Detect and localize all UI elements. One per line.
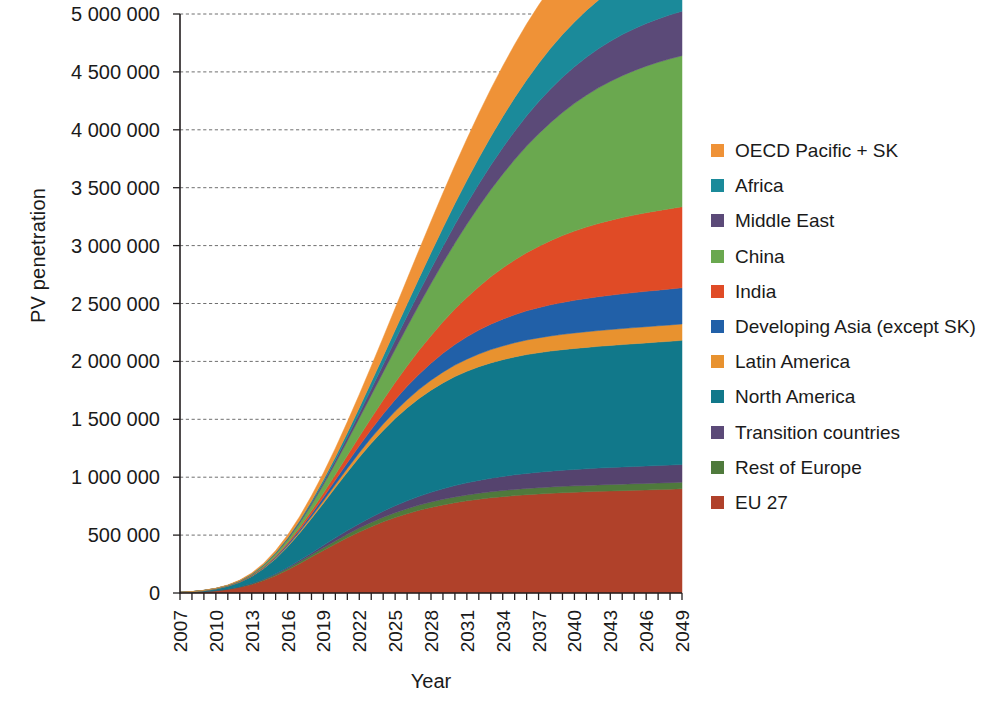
x-axis-title: Year (180, 670, 682, 693)
y-tick-label: 3 000 000 (71, 234, 160, 257)
area-band (180, 11, 682, 592)
x-tick-label: 2016 (278, 610, 300, 652)
legend-swatch-icon (711, 250, 724, 263)
legend-item: Rest of Europe (711, 450, 1007, 485)
legend-item-label: India (735, 282, 776, 301)
legend-swatch-icon (711, 355, 724, 368)
legend-item-label: Developing Asia (except SK) (735, 317, 976, 336)
legend-swatch-icon (711, 214, 724, 227)
legend-item: OECD Pacific + SK (711, 133, 1007, 168)
legend-item: Middle East (711, 203, 1007, 238)
chart-legend: OECD Pacific + SKAfricaMiddle EastChinaI… (711, 133, 1007, 520)
x-tick-label: 2025 (385, 610, 407, 652)
x-tick-label: 2019 (313, 610, 335, 652)
legend-swatch-icon (711, 285, 724, 298)
x-tick-label: 2034 (493, 610, 515, 652)
x-tick-label: 2040 (564, 610, 586, 652)
legend-item: Developing Asia (except SK) (711, 309, 1007, 344)
area-band (180, 489, 682, 593)
legend-item: Transition countries (711, 415, 1007, 450)
x-tick-label: 2010 (206, 610, 228, 652)
axis-spines (180, 14, 682, 593)
legend-swatch-icon (711, 144, 724, 157)
legend-swatch-icon (711, 320, 724, 333)
legend-item: EU 27 (711, 485, 1007, 520)
legend-item-label: EU 27 (735, 493, 788, 512)
chart-figure: PV penetration 5 000 0004 500 0004 000 0… (0, 0, 1007, 713)
legend-item-label: China (735, 247, 785, 266)
area-band (180, 465, 682, 593)
legend-swatch-icon (711, 179, 724, 192)
legend-swatch-icon (711, 426, 724, 439)
x-tick-label: 2022 (349, 610, 371, 652)
y-tick-label: 4 500 000 (71, 60, 160, 83)
x-axis-tick-labels: 2007201020132016201920222025202820312034… (0, 600, 1007, 680)
y-tick-label: 1 500 000 (71, 408, 160, 431)
legend-swatch-icon (711, 390, 724, 403)
y-tick-label: 2 500 000 (71, 292, 160, 315)
legend-item: China (711, 239, 1007, 274)
legend-item: North America (711, 379, 1007, 414)
area-band (180, 324, 682, 592)
legend-item-label: OECD Pacific + SK (735, 141, 898, 160)
y-tick-label: 2 000 000 (71, 350, 160, 373)
area-band (180, 288, 682, 593)
legend-item-label: Africa (735, 176, 784, 195)
y-tick-label: 500 000 (88, 524, 160, 547)
legend-item-label: Rest of Europe (735, 458, 862, 477)
x-tick-label: 2031 (457, 610, 479, 652)
legend-item-label: North America (735, 387, 855, 406)
y-tick-label: 3 500 000 (71, 176, 160, 199)
legend-item: India (711, 274, 1007, 309)
legend-item: Latin America (711, 344, 1007, 379)
legend-swatch-icon (711, 461, 724, 474)
x-tick-label: 2046 (636, 610, 658, 652)
area-band (180, 207, 682, 593)
area-band (180, 0, 682, 592)
legend-item-label: Middle East (735, 211, 834, 230)
x-tick-label: 2013 (242, 610, 264, 652)
area-band (180, 0, 682, 592)
area-band (180, 56, 682, 593)
y-tick-label: 1 000 000 (71, 466, 160, 489)
y-tick-label: 5 000 000 (71, 3, 160, 26)
x-tick-label: 2043 (600, 610, 622, 652)
legend-swatch-icon (711, 496, 724, 509)
x-tick-label: 2028 (421, 610, 443, 652)
x-tick-label: 2007 (170, 610, 192, 652)
area-band (180, 340, 682, 592)
x-tick-label: 2049 (672, 610, 694, 652)
x-tick-label: 2037 (529, 610, 551, 652)
area-band (180, 482, 682, 592)
legend-item-label: Transition countries (735, 423, 900, 442)
legend-item-label: Latin America (735, 352, 850, 371)
y-tick-label: 4 000 000 (71, 118, 160, 141)
legend-item: Africa (711, 168, 1007, 203)
